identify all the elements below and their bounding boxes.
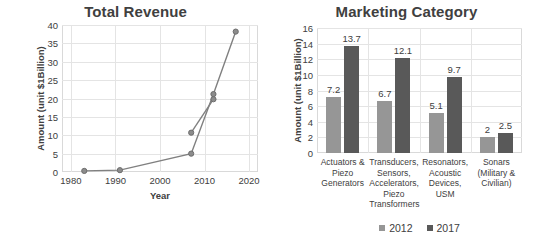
line-chart-y-tick: 40 xyxy=(47,20,58,31)
bar-chart-y-tick: 4 xyxy=(308,116,313,127)
line-chart-plot-area: 051015202530354019801990200020102020 xyxy=(62,25,258,172)
legend-swatch-icon xyxy=(427,225,433,231)
line-chart-y-tick: 30 xyxy=(47,56,58,67)
line-chart-y-tick: 15 xyxy=(47,111,58,122)
bar-2012-2 xyxy=(377,101,392,153)
line-chart-x-tick: 2010 xyxy=(194,175,215,186)
bar-chart-title: Marketing Category xyxy=(271,3,542,20)
line-chart-y-tick: 25 xyxy=(47,75,58,86)
bar-2017-2 xyxy=(395,58,410,153)
legend-item-2012[interactable]: 2012 xyxy=(379,222,412,234)
bar-2017-3 xyxy=(447,77,462,153)
line-chart-x-tick: 2020 xyxy=(239,175,260,186)
line-chart-x-tick: 1980 xyxy=(60,175,81,186)
line-chart-series-group xyxy=(62,25,258,172)
category-separator xyxy=(471,28,472,153)
bar-chart-legend: 20122017 xyxy=(317,222,522,234)
bar-chart-y-tick: 16 xyxy=(302,23,313,34)
bar-value-label: 12.1 xyxy=(394,45,413,56)
bar-chart-plot-area: 02468101214167.213.7Actuators & Piezo Ge… xyxy=(317,28,522,153)
bar-chart-y-tick: 14 xyxy=(302,38,313,49)
line-chart-y-axis-title: Amount (unit $1Billion) xyxy=(35,25,46,172)
legend-swatch-icon xyxy=(379,225,385,231)
bar-chart-y-tick: 8 xyxy=(308,85,313,96)
line-chart-x-axis-title: Year xyxy=(62,190,258,201)
bar-chart-y-tick: 10 xyxy=(302,69,313,80)
bar-value-label: 13.7 xyxy=(342,33,361,44)
legend-label: 2017 xyxy=(437,222,460,234)
line-chart-y-tick: 35 xyxy=(47,38,58,49)
bar-chart-y-tick: 12 xyxy=(302,54,313,65)
category-separator xyxy=(368,28,369,153)
data-point-marker xyxy=(117,168,122,173)
bar-chart-category-label: Transducers, Sensors, Accelerators, Piez… xyxy=(369,157,418,210)
category-separator xyxy=(420,28,421,153)
data-point-marker xyxy=(189,151,194,156)
bar-value-label: 7.2 xyxy=(327,84,340,95)
line-chart-y-tick: 20 xyxy=(47,93,58,104)
line-chart-title: Total Revenue xyxy=(0,3,271,20)
line-chart-x-tick: 1990 xyxy=(105,175,126,186)
bar-chart-category-label: Resonators, Acoustic Devices, USM xyxy=(421,157,470,199)
line-chart-x-tick: 2000 xyxy=(149,175,170,186)
bar-chart-category-label: Sonars (Military & Civilian) xyxy=(472,157,521,189)
bar-value-label: 6.7 xyxy=(378,88,391,99)
line-series-2 xyxy=(191,99,213,132)
bar-chart-y-axis-title: Amount (unit $1Billion) xyxy=(292,28,303,153)
data-point-marker xyxy=(211,91,216,96)
legend-item-2017[interactable]: 2017 xyxy=(427,222,460,234)
bar-value-label: 5.1 xyxy=(430,100,443,111)
bar-chart-y-tick: 0 xyxy=(308,148,313,159)
data-point-marker xyxy=(82,168,87,173)
line-chart-panel: Total Revenue Amount (unit $1Billion) Ye… xyxy=(0,0,271,243)
legend-label: 2012 xyxy=(389,222,412,234)
bar-2012-3 xyxy=(429,113,444,153)
bar-value-label: 2.5 xyxy=(499,120,512,131)
data-point-marker xyxy=(211,97,216,102)
bar-chart-y-tick: 6 xyxy=(308,101,313,112)
bar-chart-y-tick: 2 xyxy=(308,132,313,143)
bar-value-label: 2 xyxy=(485,124,490,135)
data-point-marker xyxy=(233,29,238,34)
bar-chart-category-label: Actuators & Piezo Generators xyxy=(318,157,367,189)
figure-container: Total Revenue Amount (unit $1Billion) Ye… xyxy=(0,0,542,243)
line-chart-y-tick: 0 xyxy=(53,167,58,178)
bar-2012-4 xyxy=(480,137,495,153)
data-point-marker xyxy=(189,130,194,135)
line-chart-y-tick: 10 xyxy=(47,130,58,141)
bar-2017-1 xyxy=(344,46,359,153)
line-chart-y-tick: 5 xyxy=(53,148,58,159)
bar-chart-panel: Marketing Category Amount (unit $1Billio… xyxy=(271,0,542,243)
bar-value-label: 9.7 xyxy=(448,64,461,75)
bar-2017-4 xyxy=(498,133,513,153)
bar-2012-1 xyxy=(326,97,341,153)
